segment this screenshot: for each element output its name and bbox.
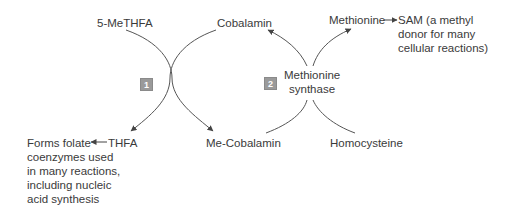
curve-from-me-cobalamin (266, 100, 307, 133)
sam-note-line2: donor for many (398, 27, 475, 41)
label-methionine: Methionine (329, 13, 385, 27)
thfa-note-line1: Forms folate (27, 136, 91, 150)
enzyme-label-line1: Methionine (284, 68, 340, 82)
arrow-to-methionine (313, 29, 351, 66)
methionine-synthase-diagram: 5-MeTHFA Cobalamin Methionine SAM (a met… (0, 0, 506, 216)
thfa-note-line3: in many reactions, (27, 164, 120, 178)
reaction-badge-1: 1 (140, 78, 153, 91)
arrow-to-cobalamin (268, 30, 307, 66)
sam-note-line1: SAM (a methyl (398, 13, 473, 27)
label-5-methfa: 5-MeTHFA (97, 16, 153, 30)
label-me-cobalamin: Me-Cobalamin (206, 136, 281, 150)
sam-note-line3: cellular reactions) (398, 41, 488, 55)
thfa-note-line2: coenzymes used (27, 150, 113, 164)
reaction-badge-2: 2 (264, 77, 277, 90)
label-cobalamin: Cobalamin (217, 16, 272, 30)
label-homocysteine: Homocysteine (330, 136, 403, 150)
curve-from-homocysteine (313, 100, 355, 133)
enzyme-label-line2: synthase (289, 82, 335, 96)
thfa-note-line4: including nucleic (27, 178, 111, 192)
thfa-note-line5: acid synthesis (27, 192, 99, 206)
label-thfa: THFA (108, 136, 137, 150)
